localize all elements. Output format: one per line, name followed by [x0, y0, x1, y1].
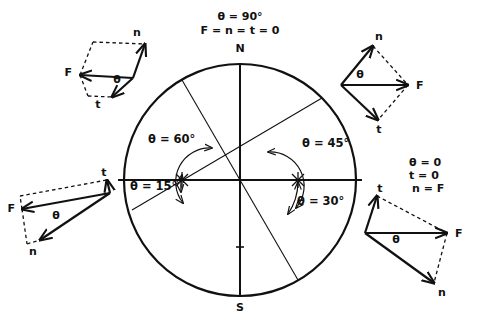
label-theta-bottom-right: θ	[392, 233, 400, 246]
right-block-t-zero: t = 0	[409, 169, 439, 182]
force-decomposition-figure: θ = 90° F = n = t = 0 N S θ = 60° θ = 45…	[0, 0, 484, 322]
vector-diagram-top-left	[80, 42, 145, 97]
construction-line-tr-2	[378, 85, 408, 120]
label-t-top-left: t	[95, 98, 100, 111]
construction-line-br-1	[377, 196, 447, 233]
construction-line-tr-1	[373, 46, 408, 85]
normal-vector-top-left	[133, 44, 145, 78]
construction-line-tl-3	[80, 75, 88, 96]
angle-label-60: θ = 60°	[148, 132, 195, 146]
label-n-top-left: n	[133, 26, 141, 39]
angle-label-15: θ = 15°	[130, 179, 177, 193]
construction-line-bl-4	[27, 240, 40, 244]
angle-label-45: θ = 45°	[302, 136, 349, 150]
label-F-top-right: F	[416, 79, 424, 92]
label-theta-bottom-left: θ	[52, 209, 60, 222]
construction-line-bl-3	[22, 209, 27, 244]
label-t-bottom-right: t	[377, 182, 382, 195]
label-F-bottom-right: F	[455, 227, 463, 240]
construction-line-tl-2	[93, 42, 145, 44]
south-label: S	[236, 301, 244, 314]
tangent-vector-top-right	[341, 85, 378, 120]
north-label: N	[235, 42, 244, 55]
label-n-bottom-left: n	[29, 245, 37, 258]
construction-line-bl-2	[20, 180, 107, 196]
diagonal-45-15	[132, 98, 322, 210]
theta-90-label: θ = 90°	[217, 10, 262, 23]
angle-arc-60	[176, 148, 212, 203]
label-t-bottom-left: t	[101, 166, 106, 179]
vector-diagram-bottom-left	[20, 180, 110, 244]
construction-line-tl-1	[80, 42, 93, 75]
label-theta-top-right: θ	[356, 68, 364, 81]
label-F-bottom-left: F	[7, 202, 15, 215]
label-n-top-right: n	[375, 30, 383, 43]
label-t-top-right: t	[376, 123, 381, 136]
construction-line-tl-4	[88, 96, 112, 97]
tangent-vector-bottom-left	[107, 180, 110, 193]
force-vector-top-left	[80, 75, 133, 78]
zero-components-label: F = n = t = 0	[201, 24, 280, 37]
right-block-n-equals-f: n = F	[412, 182, 444, 195]
angle-label-30: θ = 30°	[297, 194, 344, 208]
label-n-bottom-right: n	[438, 286, 446, 299]
diagram-canvas: θ = 90° F = n = t = 0 N S θ = 60° θ = 45…	[0, 0, 484, 322]
vector-diagram-top-right	[341, 46, 408, 120]
label-F-top-left: F	[64, 66, 72, 79]
construction-line-bl-1	[20, 196, 22, 209]
label-theta-top-left: θ	[113, 73, 121, 86]
right-block-theta-zero: θ = 0	[409, 156, 441, 169]
construction-line-br-2	[434, 233, 447, 283]
tangent-vector-bottom-right	[365, 196, 377, 233]
vector-diagram-bottom-right	[365, 196, 447, 283]
